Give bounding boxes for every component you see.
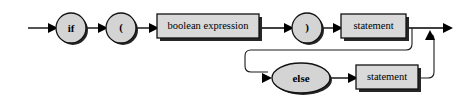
node-lparen-label: ( <box>119 21 123 34</box>
node-statement-else-label: statement <box>367 71 407 82</box>
arrow-head-exit-icon <box>443 23 453 33</box>
node-boolean-expression[interactable]: boolean expression <box>157 14 262 41</box>
node-statement-else[interactable]: statement <box>356 65 421 92</box>
node-statement-then-label: statement <box>353 20 393 31</box>
node-rparen-label: ) <box>305 21 309 34</box>
railroad-diagram: if ( boolean expression ) statement <box>0 0 467 104</box>
node-else-label: else <box>292 72 309 84</box>
node-else[interactable]: else <box>272 63 332 95</box>
node-lparen[interactable]: ( <box>106 13 138 45</box>
node-if-label: if <box>68 22 75 34</box>
node-if[interactable]: if <box>56 13 88 45</box>
node-statement-then[interactable]: statement <box>341 14 409 41</box>
rail-else-rejoin <box>419 34 434 78</box>
railroad-diagram-canvas: if ( boolean expression ) statement <box>0 0 467 104</box>
arrow-head-rejoin-up-icon <box>425 30 435 40</box>
arrow-head-else-icon <box>262 73 272 83</box>
node-boolean-expression-label: boolean expression <box>168 20 250 31</box>
node-rparen[interactable]: ) <box>292 13 324 45</box>
